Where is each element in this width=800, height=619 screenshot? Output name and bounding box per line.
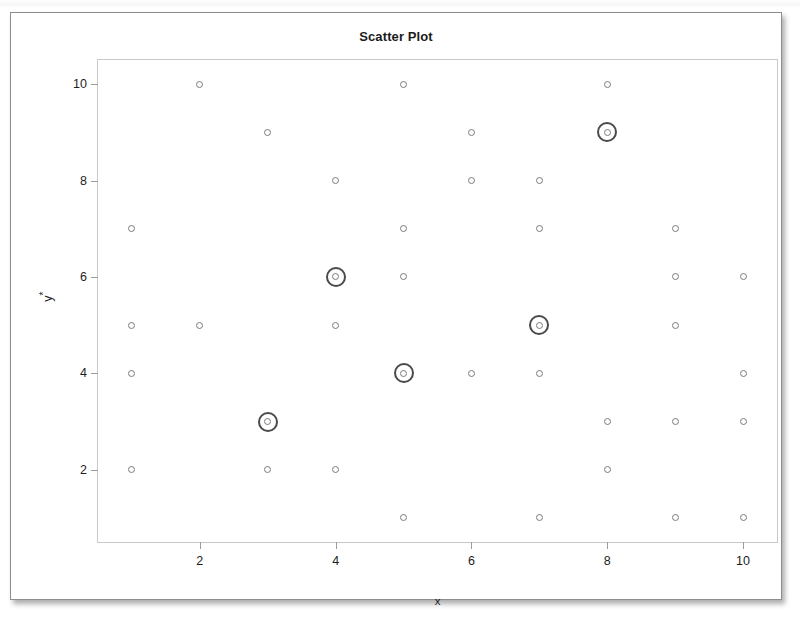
y-axis-tick [91, 470, 98, 471]
scatter-point [128, 370, 135, 377]
y-axis-tick [91, 84, 98, 85]
scatter-point [604, 466, 611, 473]
scatter-point [400, 514, 407, 521]
x-axis-tick [200, 542, 201, 549]
scatter-point [672, 225, 679, 232]
scatter-point [536, 370, 543, 377]
scatter-point [400, 81, 407, 88]
scatter-point [196, 81, 203, 88]
scatter-point-highlighted [604, 129, 611, 136]
x-axis-tick-label: 8 [604, 554, 611, 568]
scatter-point [332, 177, 339, 184]
x-axis-label: x [97, 595, 778, 607]
y-axis-tick-label: 2 [80, 463, 87, 477]
scatter-point [740, 370, 747, 377]
figure-panel: Scatter Plot 246810 246810 x y* [10, 12, 782, 600]
y-axis-tick-label: 4 [80, 366, 87, 380]
chart-title: Scatter Plot [11, 29, 781, 44]
scatter-point [740, 514, 747, 521]
scatter-point [128, 322, 135, 329]
x-axis-tick [336, 542, 337, 549]
scatter-point [672, 514, 679, 521]
scatter-point-highlighted [536, 322, 543, 329]
y-axis-tick [91, 277, 98, 278]
y-axis-tick-label: 8 [80, 174, 87, 188]
scatter-point [604, 418, 611, 425]
scatter-point [536, 177, 543, 184]
scatter-point [468, 370, 475, 377]
scatter-point-highlighted [332, 273, 339, 280]
x-axis-tick [743, 542, 744, 549]
scatter-point [740, 273, 747, 280]
y-axis-label-base: y [41, 295, 55, 301]
scatter-points-layer [98, 60, 777, 542]
scatter-point [128, 466, 135, 473]
scatter-point [536, 514, 543, 521]
scatter-point [196, 322, 203, 329]
y-axis-tick-label: 10 [73, 77, 87, 91]
scatter-point [604, 81, 611, 88]
scatter-point [672, 322, 679, 329]
scatter-point [264, 129, 271, 136]
scatter-point [740, 418, 747, 425]
x-axis-tick-label: 4 [332, 554, 339, 568]
x-axis-tick-label: 10 [736, 554, 750, 568]
scatter-point [332, 466, 339, 473]
scatter-point [468, 177, 475, 184]
scatter-point [128, 225, 135, 232]
y-axis-label-superscript: * [38, 292, 49, 296]
scatter-point [264, 466, 271, 473]
x-axis-tick [607, 542, 608, 549]
y-axis-tick [91, 181, 98, 182]
cut-off-text-sliver [0, 0, 800, 8]
plot-area: 246810 246810 [97, 59, 778, 543]
scatter-point-highlighted [400, 370, 407, 377]
y-axis-tick [91, 373, 98, 374]
scatter-point [672, 273, 679, 280]
scatter-point [400, 273, 407, 280]
y-axis-tick-label: 6 [80, 270, 87, 284]
x-axis-tick [471, 542, 472, 549]
x-axis-tick-label: 2 [196, 554, 203, 568]
y-axis-label: y* [38, 292, 55, 302]
x-axis-tick-label: 6 [468, 554, 475, 568]
scatter-point [536, 225, 543, 232]
scatter-point [468, 129, 475, 136]
scatter-point [332, 322, 339, 329]
scatter-point [400, 225, 407, 232]
scatter-point-highlighted [264, 418, 271, 425]
scatter-point [672, 418, 679, 425]
